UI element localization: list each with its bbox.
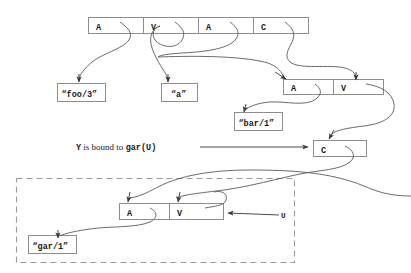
- atom-bar-label: “bar/1”: [239, 119, 275, 129]
- arrowhead-bar: [244, 104, 246, 112]
- third-cell-0-label: C: [321, 146, 326, 156]
- link-u-to-dashed-v: [228, 213, 279, 215]
- second-cell-0-label: A: [291, 84, 297, 94]
- atom-a-label: “a”: [171, 90, 186, 100]
- caption-term: gar(U): [126, 143, 157, 153]
- dashed-term-cells: A V: [120, 204, 224, 220]
- atom-gar-label: “gar/1”: [33, 242, 69, 252]
- arrowhead-second-a: [275, 72, 286, 79]
- top-cell-2-label: A: [206, 23, 212, 33]
- atom-bar: “bar/1”: [235, 113, 283, 131]
- second-cell-1-label: V: [341, 84, 347, 94]
- atom-foo-label: “foo/3”: [62, 90, 98, 100]
- arrowhead-third-c: [329, 130, 334, 139]
- caption-group: Y is bound to gar(U): [76, 142, 156, 153]
- top-cell-3-label: C: [261, 23, 266, 33]
- term-structure-diagram: A V A C A V C A V “foo/3” “a” “bar/1” “g…: [0, 0, 411, 273]
- atom-gar: “gar/1”: [29, 236, 77, 254]
- caption-middle: is bound to: [81, 142, 126, 152]
- atom-a: “a”: [162, 84, 198, 102]
- third-term-cell: C: [314, 141, 367, 157]
- dashed-cell-1-label: V: [177, 209, 183, 219]
- top-cell-0-label: A: [96, 23, 102, 33]
- link-outer-to-dashed-a: [130, 170, 411, 198]
- u-variable-label: U: [281, 212, 286, 220]
- diagram-canvas: A V A C A V C A V “foo/3” “a” “bar/1” “g…: [0, 0, 411, 273]
- caption-y-bound: Y is bound to gar(U): [76, 142, 156, 153]
- top-term-cells: A V A C: [89, 18, 309, 34]
- second-term-cells: A V: [284, 80, 384, 95]
- dashed-cell-0-label: A: [127, 209, 133, 219]
- link-top2-to-second: [158, 56, 283, 75]
- atom-foo: “foo/3”: [58, 84, 106, 102]
- arrowhead-dashed-a: [128, 192, 130, 202]
